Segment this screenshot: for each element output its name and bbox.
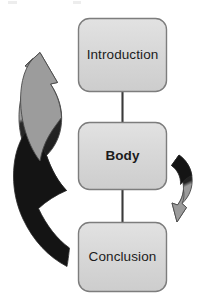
right-cycle-arrow (172, 155, 193, 222)
left-cycle-arrow (14, 53, 70, 267)
node-introduction-label: Introduction (87, 48, 159, 63)
node-conclusion[interactable]: Conclusion (78, 222, 167, 292)
node-introduction[interactable]: Introduction (78, 18, 167, 92)
node-conclusion-label: Conclusion (89, 250, 157, 265)
diagram-canvas: Introduction Body Conclusion (0, 0, 211, 307)
node-body-label: Body (105, 149, 139, 164)
node-body[interactable]: Body (78, 122, 167, 190)
